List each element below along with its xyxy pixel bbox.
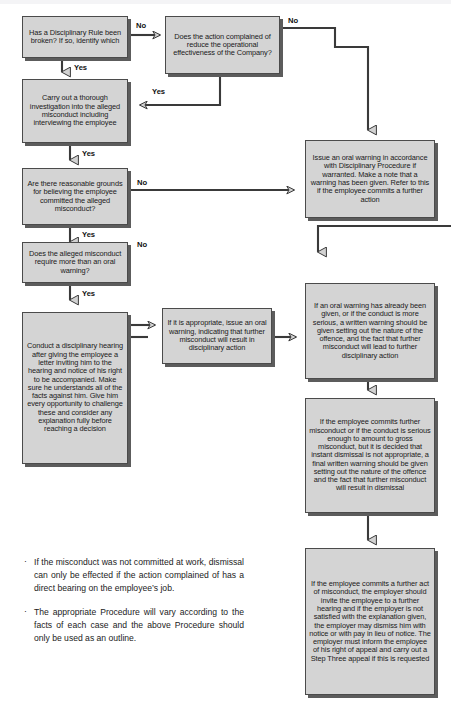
node-issue-oral-warning-accordance: Issue an oral warning in accordance with… (305, 140, 435, 218)
edge-label-text: Yes (82, 230, 95, 239)
node-dismissal-step-three: If the employee commits a further act of… (305, 548, 435, 695)
edge-label-yes-rule-broken: Yes (74, 63, 87, 72)
node-written-warning: If an oral warning has already been give… (305, 283, 435, 379)
edge-label-text: Yes (74, 63, 87, 72)
edge-label-yes-investigation: Yes (82, 149, 95, 158)
node-disciplinary-rule-broken: Has a Disciplinary Rule been broken? If … (22, 16, 128, 58)
node-issue-oral-warning-if-appropriate: If it is appropriate, issue an oral warn… (162, 308, 272, 364)
node-text: Issue an oral warning in accordance with… (309, 154, 431, 204)
node-text: Does the action complained of reduce the… (169, 33, 276, 58)
edge-label-yes-effectiveness: Yes (152, 87, 165, 96)
edge-label-yes-grounds: Yes (82, 230, 95, 239)
note-procedure-outline: · The appropriate Procedure will vary ac… (22, 606, 244, 645)
edge-label-text: No (288, 16, 298, 25)
node-text: Conduct a disciplinary hearing after giv… (26, 342, 124, 433)
node-text: If the employee commits a further act of… (309, 580, 431, 663)
edge-label-text: No (136, 21, 146, 30)
node-reasonable-grounds: Are there reasonable grounds for believi… (22, 168, 128, 225)
node-text: Has a Disciplinary Rule been broken? If … (26, 29, 124, 46)
node-text: If an oral warning has already been give… (309, 302, 431, 360)
edge-label-text: Yes (152, 87, 165, 96)
node-text: Carry out a thorough investigation into … (26, 94, 124, 127)
edge-label-yes-oral-warning: Yes (82, 289, 95, 298)
edge-label-text: No (137, 178, 147, 187)
node-text: If the employee commits further miscondu… (309, 418, 431, 493)
node-action-reduce-effectiveness: Does the action complained of reduce the… (165, 16, 280, 74)
edge-label-no-rule-broken: No (136, 21, 146, 30)
node-carry-out-investigation: Carry out a thorough investigation into … (22, 79, 128, 143)
node-text: Does the alleged misconduct require more… (26, 250, 124, 275)
page-top-rule (0, 0, 451, 4)
bullet-glyph: · (24, 555, 27, 568)
edge-label-text: No (137, 240, 147, 249)
edge-label-no-oral-warning: No (137, 240, 147, 249)
node-text: Are there reasonable grounds for believi… (26, 180, 124, 213)
note-text: If the misconduct was not committed at w… (34, 557, 244, 593)
node-more-than-oral-warning: Does the alleged misconduct require more… (22, 242, 128, 283)
edge-label-text: Yes (82, 149, 95, 158)
notes-list: · If the misconduct was not committed at… (22, 556, 244, 656)
edge-label-text: Yes (82, 289, 95, 298)
edge-label-no-effectiveness: No (288, 16, 298, 25)
node-conduct-disciplinary-hearing: Conduct a disciplinary hearing after giv… (22, 312, 128, 464)
bullet-glyph: · (24, 605, 27, 618)
edge-label-no-grounds: No (137, 178, 147, 187)
node-text: If it is appropriate, issue an oral warn… (166, 319, 268, 352)
flowchart-page: Has a Disciplinary Rule been broken? If … (0, 0, 451, 707)
node-final-written-warning: If the employee commits further miscondu… (305, 398, 435, 513)
note-text: The appropriate Procedure will vary acco… (34, 607, 244, 643)
note-misconduct-outside-work: · If the misconduct was not committed at… (22, 556, 244, 595)
